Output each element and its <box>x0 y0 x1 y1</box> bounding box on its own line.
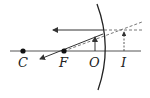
point-f <box>61 48 66 53</box>
ray-diagram: C F O I <box>0 0 150 98</box>
point-c <box>20 48 25 53</box>
label-o: O <box>89 55 100 70</box>
label-i: I <box>120 55 127 70</box>
label-f: F <box>58 55 69 70</box>
convex-mirror <box>97 4 105 90</box>
label-c: C <box>18 55 28 70</box>
